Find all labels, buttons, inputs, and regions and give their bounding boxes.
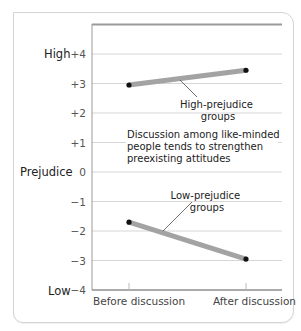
y-tick-label: 0 — [79, 166, 86, 178]
low-prejudice-line — [129, 222, 246, 259]
y-tick-label: −2 — [71, 225, 86, 237]
data-point-marker — [243, 256, 248, 261]
low-label-leader — [163, 202, 192, 231]
y-tick-label: +4 — [71, 48, 87, 60]
high-label-leader — [180, 80, 197, 97]
data-point-marker — [126, 220, 131, 225]
y-tick-label: +2 — [71, 107, 86, 119]
y-tick-label: −4 — [71, 284, 87, 296]
y-tick-label: +3 — [71, 78, 86, 90]
high-prejudice-line — [129, 70, 246, 85]
data-point-marker — [243, 68, 248, 73]
x-label-before: Before discussion — [93, 295, 185, 307]
y-word-low: Low — [48, 284, 71, 298]
y-tick-labels: +4+3+2+10−1−2−3−4 — [71, 48, 87, 296]
prejudice-line-chart: +4+3+2+10−1−2−3−4 High Prejudice Low Bef… — [0, 0, 301, 331]
high-prejudice-label: High-prejudice groups — [180, 99, 256, 122]
y-tick-label: +1 — [71, 137, 86, 149]
data-point-marker — [126, 82, 131, 87]
y-tick-label: −3 — [71, 255, 86, 267]
y-word-high: High — [44, 47, 70, 61]
y-tick-label: −1 — [71, 196, 86, 208]
x-label-after: After discussion — [213, 295, 296, 307]
y-axis-label: Prejudice — [20, 165, 73, 179]
